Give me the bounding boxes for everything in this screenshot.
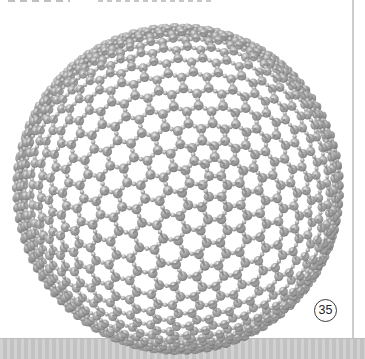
figure-number-badge: 35 <box>314 299 337 322</box>
figure-number: 35 <box>319 304 333 317</box>
fullerene-model <box>0 0 365 359</box>
figure-panel: 35 <box>0 0 365 359</box>
